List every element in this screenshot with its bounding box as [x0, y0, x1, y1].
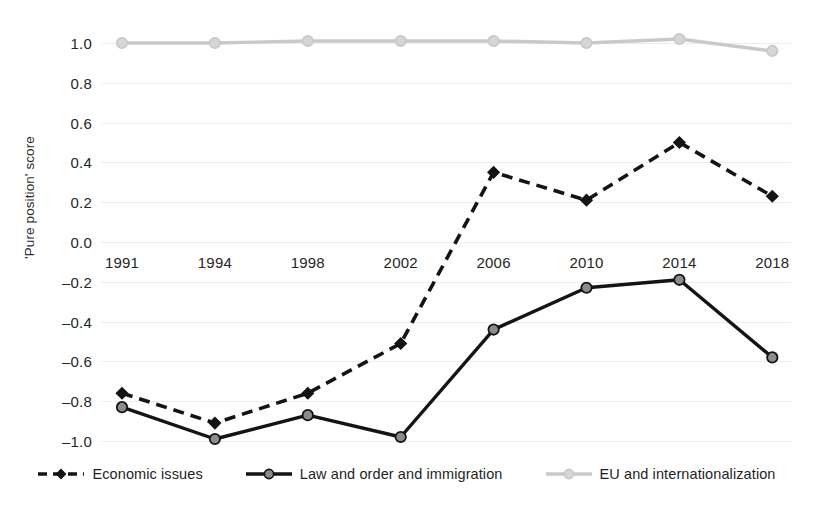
chart-legend: Economic issuesLaw and order and immigra… — [0, 466, 813, 482]
data-point-marker-diamond — [116, 388, 127, 399]
data-point-marker-circle — [488, 324, 498, 334]
data-point-marker-circle — [210, 38, 220, 48]
legend-item-1[interactable]: Economic issues — [37, 466, 202, 482]
legend-swatch-icon — [37, 467, 85, 481]
data-point-marker-circle — [581, 38, 591, 48]
legend-swatch-icon — [545, 467, 593, 481]
data-point-marker-circle — [674, 34, 684, 44]
data-point-marker-circle — [210, 434, 220, 444]
data-point-marker-circle — [117, 402, 127, 412]
chart-container: 'Pure position' score 1.00.80.60.40.20.0… — [0, 0, 813, 509]
legend-label: Law and order and immigration — [300, 466, 503, 482]
data-point-marker-diamond — [209, 417, 220, 428]
data-point-marker-circle — [303, 410, 313, 420]
plot-area — [0, 0, 813, 509]
data-point-marker-circle — [767, 46, 777, 56]
series-line — [122, 280, 772, 439]
data-point-marker-circle — [303, 36, 313, 46]
legend-item-2[interactable]: Law and order and immigration — [245, 466, 503, 482]
data-point-marker-circle — [581, 283, 591, 293]
data-point-marker-circle — [674, 275, 684, 285]
data-point-marker-circle — [396, 36, 406, 46]
data-point-marker-diamond — [767, 191, 778, 202]
data-point-marker-circle — [488, 36, 498, 46]
legend-label: EU and internationalization — [600, 466, 776, 482]
data-point-marker-circle — [767, 352, 777, 362]
series-3 — [117, 34, 778, 56]
legend-item-3[interactable]: EU and internationalization — [545, 466, 776, 482]
data-point-marker-circle — [117, 38, 127, 48]
data-point-marker-circle — [396, 432, 406, 442]
legend-label: Economic issues — [92, 466, 202, 482]
legend-swatch-icon — [245, 467, 293, 481]
